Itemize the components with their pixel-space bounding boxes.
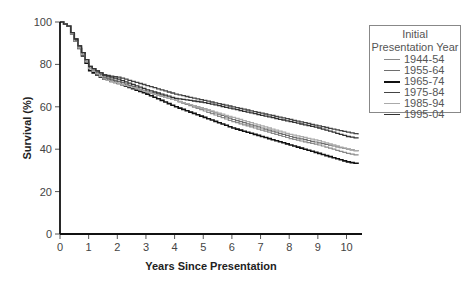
survival-curves bbox=[60, 22, 358, 164]
legend-title: Initial Presentation Year bbox=[370, 28, 460, 54]
survival-curve-1944-54 bbox=[60, 22, 358, 156]
x-axis-ticks: 012345678910 bbox=[57, 234, 353, 253]
y-tick-label: 100 bbox=[34, 16, 52, 28]
x-tick-label: 8 bbox=[286, 241, 292, 253]
y-tick-label: 40 bbox=[40, 143, 52, 155]
x-tick-label: 2 bbox=[114, 241, 120, 253]
y-tick-label: 60 bbox=[40, 101, 52, 113]
legend-item: 1995-04 bbox=[370, 109, 460, 120]
legend-line-swatch-icon bbox=[384, 92, 400, 93]
x-tick-label: 9 bbox=[315, 241, 321, 253]
x-tick-label: 4 bbox=[172, 241, 178, 253]
y-tick-label: 0 bbox=[46, 228, 52, 240]
legend: Initial Presentation Year 1944-541955-64… bbox=[369, 25, 461, 113]
y-axis-ticks: 020406080100 bbox=[34, 16, 60, 240]
y-axis-title: Survival (%) bbox=[21, 96, 33, 159]
survival-curve-1975-84 bbox=[60, 22, 358, 134]
legend-line-swatch-icon bbox=[384, 59, 400, 60]
x-tick-label: 10 bbox=[340, 241, 352, 253]
legend-line-swatch-icon bbox=[384, 103, 400, 104]
legend-line-swatch-icon bbox=[384, 70, 400, 71]
x-tick-label: 0 bbox=[57, 241, 63, 253]
x-tick-label: 7 bbox=[257, 241, 263, 253]
survival-curve-1955-64 bbox=[60, 22, 358, 151]
x-tick-label: 6 bbox=[229, 241, 235, 253]
x-tick-label: 5 bbox=[200, 241, 206, 253]
x-tick-label: 1 bbox=[86, 241, 92, 253]
legend-items: 1944-541955-641965-741975-841985-941995-… bbox=[370, 54, 460, 120]
survival-curve-1985-94 bbox=[60, 22, 358, 151]
legend-title-line1: Initial bbox=[370, 28, 460, 41]
x-tick-label: 3 bbox=[143, 241, 149, 253]
survival-curve-1965-74 bbox=[60, 22, 358, 164]
legend-line-swatch-icon bbox=[384, 114, 400, 115]
legend-label: 1995-04 bbox=[404, 109, 444, 120]
y-tick-label: 80 bbox=[40, 58, 52, 70]
x-axis-title: Years Since Presentation bbox=[145, 260, 277, 272]
legend-line-swatch-icon bbox=[384, 81, 400, 83]
survival-curve-1995-04 bbox=[60, 22, 358, 139]
y-tick-label: 20 bbox=[40, 186, 52, 198]
